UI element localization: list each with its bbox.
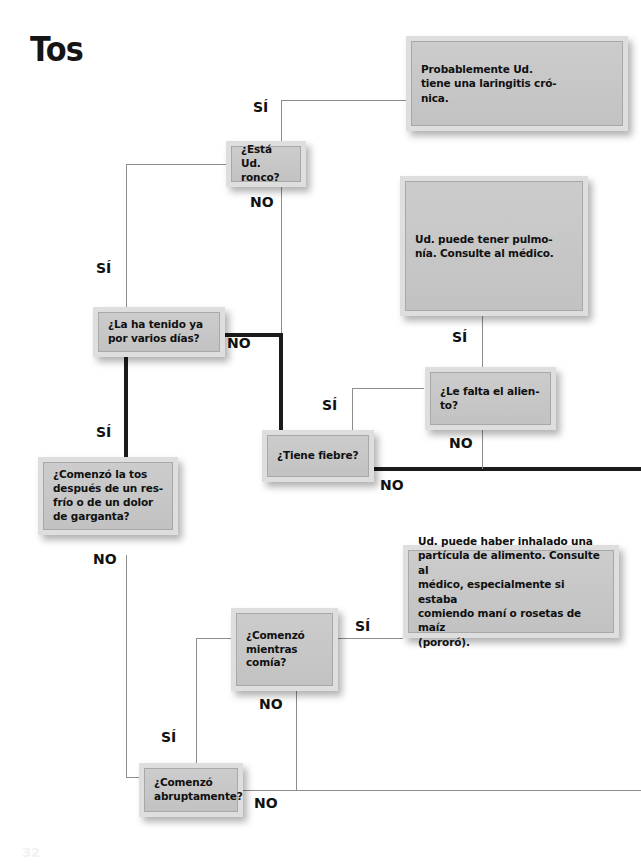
label-abrupto-si: SÍ [161,730,176,744]
edge-ronco-si-vertical [281,100,282,141]
page-folio: 32 [22,845,40,860]
edge-abrupto-si-vertical [196,638,197,777]
q-comenzo-abruptamente: ¿Comenzó abruptamente? [139,763,243,817]
q-comenzo-la-tos-despues-de-un-resfrio: ¿Comenzó la tos después de un res- frío … [38,457,178,535]
q-varios-dias-text: ¿La ha tenido ya por varios días? [108,318,203,346]
edge-resfrio-si-vertical [124,356,128,457]
edge-abrupto-no-horizontal [238,790,641,791]
q-tiene-fiebre: ¿Tiene fiebre? [262,430,374,482]
q-le-falta-el-aliento: ¿Le falta el alien- to? [425,367,556,430]
label-resfrio-no: NO [93,552,117,566]
q-abrupto-inner: ¿Comenzó abruptamente? [144,768,238,812]
edge-variosdias-si-horizontal [126,164,226,165]
edge-aliento-si-vertical [482,316,483,367]
edge-variosdias-si-vertical [126,164,127,307]
q-resfrio-text: ¿Comenzó la tos después de un res- frío … [53,468,163,523]
result-laringitis-cronica: Probablemente Ud. tiene una laringitis c… [406,36,628,131]
q-comiendo-text: ¿Comenzó mientras comía? [246,629,305,671]
label-aliento-no: NO [449,436,473,450]
label-comiendo-si: SÍ [355,619,370,633]
q-esta-ud-ronco-inner: ¿Está Ud. ronco? [231,146,301,182]
edge-comiendo-si-horizontal [337,638,403,639]
label-ronco-si: SÍ [253,100,268,114]
result-inhalado-text: Ud. puede haber inhalado una partícula d… [418,534,604,650]
q-resfrio-inner: ¿Comenzó la tos después de un res- frío … [43,462,173,530]
result-particula-inhalada: Ud. puede haber inhalado una partícula d… [403,545,619,638]
q-comenzo-mientras-comia: ¿Comenzó mientras comía? [231,608,338,691]
edge-ronco-si-horizontal [281,100,406,101]
edge-fiebre-no-horizontal [372,467,641,471]
q-esta-ud-ronco: ¿Está Ud. ronco? [226,141,306,187]
edge-ronco-no-vertical [281,187,282,334]
label-ronco-no: NO [250,195,274,209]
result-inhalado-inner: Ud. puede haber inhalado una partícula d… [408,550,614,633]
page-title: Tos [30,33,83,66]
edge-aliento-no-vertical [482,430,483,469]
edge-resfrio-no-vertical [126,555,127,777]
label-fiebre-no: NO [380,478,404,492]
label-fiebre-si: SÍ [322,398,337,412]
label-variosdias-no: NO [227,336,251,350]
edge-fiebre-si-horizontal [352,388,424,389]
label-aliento-si: SÍ [452,330,467,344]
result-pulmonia-inner: Ud. puede tener pulmo- nía. Consulte al … [405,181,583,311]
label-abrupto-no: NO [254,796,278,810]
edge-comiendo-no-vertical [296,691,297,791]
q-fiebre-inner: ¿Tiene fiebre? [267,435,369,477]
q-comiendo-inner: ¿Comenzó mientras comía? [236,613,333,686]
label-variosdias-si: SÍ [96,261,111,275]
result-pulmonia-text: Ud. puede tener pulmo- nía. Consulte al … [415,232,554,261]
q-fiebre-text: ¿Tiene fiebre? [277,449,358,463]
q-esta-ud-ronco-text: ¿Está Ud. ronco? [241,143,291,185]
label-comiendo-no: NO [259,697,283,711]
q-aliento-inner: ¿Le falta el alien- to? [430,372,551,425]
q-la-ha-tenido-ya-por-varios-dias: ¿La ha tenido ya por varios días? [93,307,225,357]
result-laringitis-text: Probablemente Ud. tiene una laringitis c… [421,62,556,105]
q-abrupto-text: ¿Comenzó abruptamente? [154,776,243,804]
q-aliento-text: ¿Le falta el alien- to? [440,385,539,413]
label-resfrio-si: SÍ [96,425,111,439]
flowchart-page: Tos Probablemente Ud. tiene una laringit… [0,0,641,864]
result-laringitis-inner: Probablemente Ud. tiene una laringitis c… [411,41,623,126]
edge-abrupto-si-horizontal [196,638,235,639]
result-pulmonia: Ud. puede tener pulmo- nía. Consulte al … [400,176,588,316]
q-varios-dias-inner: ¿La ha tenido ya por varios días? [98,312,220,352]
